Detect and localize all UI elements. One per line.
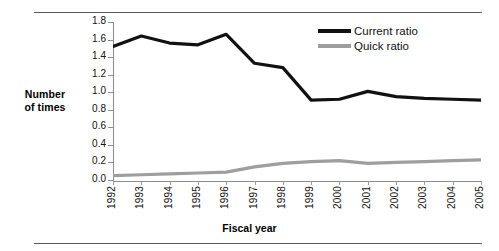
x-axis-tick-label: 1996 <box>219 186 233 209</box>
y-axis-tick-label: 0.0 <box>66 173 106 184</box>
x-axis-tick <box>481 181 482 185</box>
x-axis-tick-label: 1994 <box>163 186 177 209</box>
x-axis-tick <box>339 181 340 185</box>
y-axis-tick-label: 1.6 <box>66 33 106 44</box>
x-axis-tick-label: 1999 <box>304 186 318 209</box>
x-axis-tick <box>141 181 142 185</box>
x-axis-title: Fiscal year <box>0 222 499 234</box>
legend-item: Quick ratio <box>318 39 418 53</box>
y-axis-tick-label: 1.8 <box>66 15 106 26</box>
x-axis-tick <box>255 181 256 185</box>
y-axis-tick-label: 0.2 <box>66 155 106 166</box>
x-axis-tick-label: 1993 <box>134 186 148 209</box>
x-axis-tick <box>453 181 454 185</box>
legend-swatch <box>318 29 351 33</box>
y-axis-tick-label: 1.2 <box>66 68 106 79</box>
x-axis-tick <box>311 181 312 185</box>
x-axis-tick-label: 2005 <box>474 186 488 209</box>
x-axis-tick <box>198 181 199 185</box>
x-axis-tick-label: 1998 <box>276 186 290 209</box>
legend-label: Current ratio <box>354 25 418 38</box>
x-axis-tick-label: 1992 <box>106 186 120 209</box>
legend-swatch <box>318 44 351 48</box>
y-axis-tick-label: 0.8 <box>66 103 106 114</box>
x-axis-tick-label: 2001 <box>361 186 375 209</box>
legend-label: Quick ratio <box>354 40 409 53</box>
x-axis-line <box>113 181 482 182</box>
x-axis-tick <box>283 181 284 185</box>
x-axis-tick <box>113 181 114 185</box>
x-axis-tick-label: 2000 <box>332 186 346 209</box>
x-axis-tick <box>226 181 227 185</box>
y-axis-tick-label: 0.6 <box>66 120 106 131</box>
x-axis-tick <box>368 181 369 185</box>
y-axis-tick-labels: 0.00.20.40.60.81.01.21.41.61.8 <box>60 0 106 251</box>
y-axis-tick-label: 1.0 <box>66 85 106 96</box>
x-axis-tick-label: 2004 <box>446 186 460 209</box>
chart-legend: Current ratioQuick ratio <box>318 24 418 54</box>
series-lines <box>113 22 481 180</box>
y-axis-tick-label: 0.4 <box>66 138 106 149</box>
series-line <box>113 34 481 100</box>
x-axis-tick-label: 2002 <box>389 186 403 209</box>
x-axis-tick-label: 1995 <box>191 186 205 209</box>
chart-figure: Number of times 0.00.20.40.60.81.01.21.4… <box>0 0 499 251</box>
x-axis-tick-label: 1997 <box>248 186 262 209</box>
plot-area <box>113 22 481 180</box>
legend-item: Current ratio <box>318 24 418 38</box>
x-axis-tick <box>396 181 397 185</box>
x-axis-tick <box>170 181 171 185</box>
x-axis-tick-label: 2003 <box>417 186 431 209</box>
y-axis-tick-label: 1.4 <box>66 50 106 61</box>
series-line <box>113 160 481 176</box>
x-axis-tick <box>424 181 425 185</box>
